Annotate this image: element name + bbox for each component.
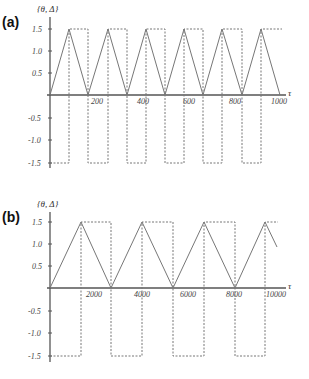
panel-label-a: (a) [2,14,19,30]
x-ticks-b: 2000 4000 6000 8000 10000 [86,290,286,299]
svg-text:0.5: 0.5 [32,262,42,271]
x-axis-label-a: τ [288,88,292,98]
y-axis-label-b: {θ, Δ} [37,199,59,209]
plot-b: (b) {θ, Δ} τ 1.5 1.0 0.5 -0.5 -1.0 -1.5 … [2,199,292,362]
y-axis-label-a: {θ, Δ} [37,4,59,14]
delta-series-b [50,222,278,356]
svg-text:200: 200 [91,97,103,106]
svg-text:1000: 1000 [271,97,287,106]
svg-text:8000: 8000 [226,290,242,299]
svg-text:600: 600 [183,97,195,106]
svg-text:10000: 10000 [266,290,286,299]
svg-text:-1.5: -1.5 [28,159,41,168]
plot-a: (a) {θ, Δ} τ 1.5 1.0 0.5 -0.5 -1.0 -1.5 … [2,4,292,168]
svg-text:-1.0: -1.0 [28,136,41,145]
y-ticks-a: 1.5 1.0 0.5 -0.5 -1.0 -1.5 [28,25,52,168]
delta-series-a [50,29,282,163]
svg-text:800: 800 [229,97,241,106]
svg-text:-0.5: -0.5 [28,307,41,316]
svg-text:1.0: 1.0 [32,240,42,249]
svg-text:1.5: 1.5 [32,25,42,34]
svg-text:-1.0: -1.0 [28,329,41,338]
theta-series-b [50,222,277,288]
figure: (a) {θ, Δ} τ 1.5 1.0 0.5 -0.5 -1.0 -1.5 … [0,0,309,379]
x-ticks-a: 200 400 600 800 1000 [91,97,287,106]
svg-text:-1.5: -1.5 [28,352,41,361]
panel-label-b: (b) [2,209,20,225]
svg-text:0.5: 0.5 [32,69,42,78]
svg-text:1.0: 1.0 [32,47,42,56]
svg-text:-0.5: -0.5 [28,114,41,123]
svg-text:1.5: 1.5 [32,218,42,227]
svg-text:2000: 2000 [86,290,102,299]
svg-text:6000: 6000 [180,290,196,299]
x-axis-label-b: τ [288,281,292,291]
svg-text:400: 400 [137,97,149,106]
y-ticks-b: 1.5 1.0 0.5 -0.5 -1.0 -1.5 [28,218,52,361]
